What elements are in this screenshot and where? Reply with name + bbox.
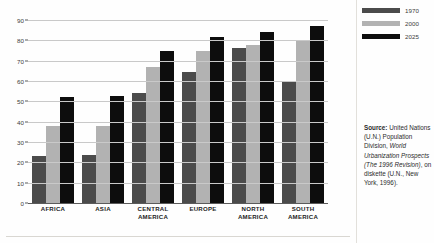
- x-axis-label: NORTHAMERICA: [230, 205, 276, 235]
- x-axis-label: SOUTHAMERICA: [280, 205, 326, 235]
- gridline-60: [28, 81, 328, 82]
- side-panel: 1970 2000 2025 Source: United Nations (U…: [356, 0, 434, 243]
- legend-label-2000: 2000: [405, 20, 419, 27]
- y-tick-mark-10: [25, 182, 28, 183]
- bar-group: [132, 20, 174, 203]
- y-tick-mark-20: [25, 162, 28, 163]
- y-tick-label-0: 0: [20, 200, 24, 207]
- y-tick-label-90: 90: [17, 17, 24, 24]
- plot-area: 9080706050403020100: [28, 20, 328, 203]
- gridline-20: [28, 162, 328, 163]
- bar-2025: [160, 51, 174, 204]
- y-tick-mark-80: [25, 40, 28, 41]
- gridline-10: [28, 183, 328, 184]
- gridline-40: [28, 122, 328, 123]
- legend-label-2025: 2025: [405, 33, 419, 40]
- x-axis-label: AFRICA: [30, 205, 76, 235]
- bar-2000: [246, 45, 260, 203]
- y-tick-label-70: 70: [17, 57, 24, 64]
- gridline-30: [28, 142, 328, 143]
- bar-group: [82, 20, 124, 203]
- source-label: Source:: [364, 124, 387, 131]
- gridline-50: [28, 101, 328, 102]
- y-tick-label-80: 80: [17, 37, 24, 44]
- y-tick-mark-90: [25, 20, 28, 21]
- legend-swatch-1970: [362, 8, 400, 14]
- x-axis-label: CENTRALAMERICA: [130, 205, 176, 235]
- legend-item-1970: 1970: [362, 5, 432, 16]
- x-axis-labels: AFRICAASIACENTRALAMERICAEUROPENORTHAMERI…: [28, 205, 328, 235]
- y-tick-label-30: 30: [17, 139, 24, 146]
- gridline-0: [28, 203, 328, 204]
- bar-2025: [210, 37, 224, 203]
- y-tick-label-40: 40: [17, 118, 24, 125]
- legend-item-2025: 2025: [362, 31, 432, 42]
- legend-swatch-2025: [362, 34, 400, 40]
- gridline-90: [28, 20, 328, 21]
- y-tick-label-20: 20: [17, 159, 24, 166]
- bar-group: [182, 20, 224, 203]
- bar-2000: [196, 51, 210, 204]
- chart-legend: 1970 2000 2025: [362, 5, 432, 44]
- bar-2000: [96, 126, 110, 203]
- bar-2000: [46, 126, 60, 203]
- bottom-divider: [6, 236, 350, 237]
- y-tick-mark-70: [25, 60, 28, 61]
- bar-group: [32, 20, 74, 203]
- y-tick-mark-60: [25, 81, 28, 82]
- y-tick-mark-40: [25, 121, 28, 122]
- source-note: Source: United Nations (U.N.) Population…: [364, 123, 432, 187]
- bar-groups: [28, 20, 328, 203]
- y-tick-mark-30: [25, 142, 28, 143]
- y-tick-label-50: 50: [17, 98, 24, 105]
- y-tick-mark-50: [25, 101, 28, 102]
- y-tick-label-10: 10: [17, 179, 24, 186]
- y-tick-mark-0: [25, 203, 28, 204]
- bar-1970: [132, 93, 146, 203]
- bar-2025: [260, 32, 274, 203]
- gridline-70: [28, 61, 328, 62]
- gridline-80: [28, 40, 328, 41]
- legend-item-2000: 2000: [362, 18, 432, 29]
- bar-2025: [60, 97, 74, 203]
- legend-label-1970: 1970: [405, 7, 419, 14]
- bar-group: [232, 20, 274, 203]
- bar-2025: [110, 96, 124, 203]
- x-axis-label: EUROPE: [180, 205, 226, 235]
- y-tick-label-60: 60: [17, 78, 24, 85]
- chart-panel: 9080706050403020100 AFRICAASIACENTRALAME…: [0, 0, 356, 243]
- urbanization-bar-chart-figure: 9080706050403020100 AFRICAASIACENTRALAME…: [0, 0, 434, 243]
- x-axis-label: ASIA: [80, 205, 126, 235]
- bar-group: [282, 20, 324, 203]
- bar-1970: [232, 48, 246, 203]
- legend-swatch-2000: [362, 21, 400, 27]
- bar-2025: [310, 26, 324, 203]
